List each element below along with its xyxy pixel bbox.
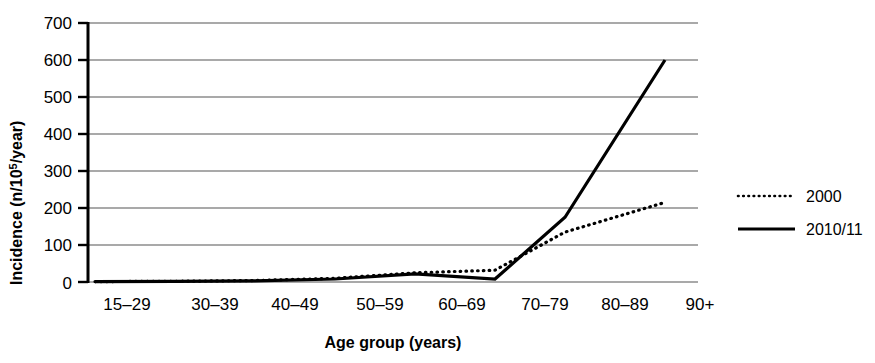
svg-text:Incidence (n/105/year): Incidence (n/105/year): [7, 121, 25, 285]
x-tick-label-40-49: 40–49: [271, 295, 318, 314]
legend-label-2010-11: 2010/11: [806, 221, 863, 238]
x-tick-label-70-79: 70–79: [521, 295, 568, 314]
chart-legend: 2000 2010/11: [738, 188, 863, 238]
y-tick-label-200: 200: [44, 199, 72, 218]
y-tick-label-600: 600: [44, 51, 72, 70]
incidence-by-age-line-chart: 700 600 500 400 300 200 100 0 Incidence …: [0, 0, 875, 363]
x-axis-title: Age group (years): [325, 334, 462, 351]
y-tick-label-300: 300: [44, 162, 72, 181]
y-axis-tick-labels: 700 600 500 400 300 200 100 0: [44, 14, 72, 293]
y-tick-label-100: 100: [44, 236, 72, 255]
legend-entry-2010-11: 2010/11: [738, 221, 863, 238]
x-tick-label-15-29: 15–29: [103, 295, 150, 314]
x-tick-label-50-59: 50–59: [356, 295, 403, 314]
legend-label-2000: 2000: [806, 188, 842, 205]
y-tick-label-700: 700: [44, 14, 72, 33]
x-tick-label-80-89: 80–89: [601, 295, 648, 314]
legend-entry-2000: 2000: [738, 188, 842, 205]
x-tick-label-60-69: 60–69: [438, 295, 485, 314]
y-tick-label-0: 0: [63, 274, 72, 293]
y-axis-title: Incidence (n/105/year): [7, 121, 25, 285]
x-axis-tick-labels: 15–29 30–39 40–49 50–59 60–69 70–79 80–8…: [103, 295, 714, 314]
x-tick-label-30-39: 30–39: [191, 295, 238, 314]
y-axis-title-main: Incidence (n/10: [8, 169, 25, 285]
y-tick-label-400: 400: [44, 125, 72, 144]
y-tick-label-500: 500: [44, 88, 72, 107]
chart-figure: 700 600 500 400 300 200 100 0 Incidence …: [0, 0, 875, 363]
x-tick-label-90-plus: 90+: [686, 295, 715, 314]
y-axis-title-tail: /year): [8, 121, 25, 164]
